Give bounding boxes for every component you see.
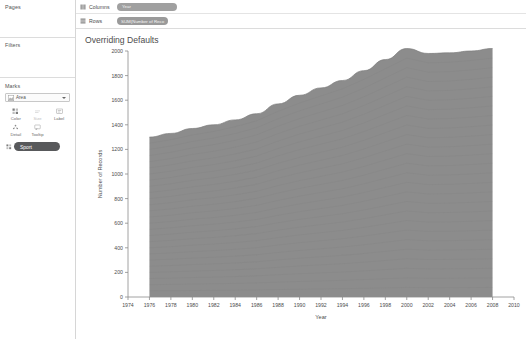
svg-text:1986: 1986 [251, 302, 263, 308]
svg-text:2008: 2008 [487, 302, 499, 308]
svg-text:2000: 2000 [111, 48, 123, 54]
svg-text:800: 800 [114, 196, 123, 202]
pill-sum-number-of-records[interactable]: SUM(Number of Reco [117, 17, 168, 25]
marks-button-label-label: Label [54, 116, 64, 121]
svg-text:1984: 1984 [229, 302, 241, 308]
columns-shelf-pills: Year [117, 3, 177, 11]
tableau-worksheet: Pages Filters Marks Area [0, 0, 526, 339]
area-chart[interactable]: 0200400600800100012001400160018002000197… [76, 29, 526, 339]
marks-button-size-label: Size [33, 116, 41, 121]
svg-text:1400: 1400 [111, 122, 123, 128]
marks-encoding-pill-row: Sport [5, 142, 70, 151]
columns-shelf-label: Columns [89, 4, 117, 10]
svg-text:1982: 1982 [208, 302, 220, 308]
svg-text:1000: 1000 [111, 171, 123, 177]
svg-text:1990: 1990 [294, 302, 306, 308]
svg-text:2010: 2010 [508, 302, 520, 308]
mark-type-dropdown[interactable]: Area [5, 93, 70, 102]
color-icon [6, 144, 12, 150]
rows-shelf-label: Rows [89, 18, 117, 24]
mark-type-value: Area [16, 95, 60, 100]
color-icon [12, 108, 19, 115]
filters-card: Filters [0, 38, 75, 78]
svg-text:Year: Year [315, 314, 326, 320]
rows-shelf[interactable]: Rows SUM(Number of Reco [76, 14, 526, 28]
chevron-down-icon [62, 97, 66, 99]
filters-card-title: Filters [5, 42, 70, 48]
shelf-bar: Columns Year Rows SUM(Number of Reco [76, 0, 526, 29]
marks-button-color[interactable]: Color [5, 106, 27, 122]
svg-text:1992: 1992 [315, 302, 327, 308]
svg-text:1988: 1988 [272, 302, 284, 308]
marks-button-label[interactable]: Label [48, 106, 70, 122]
svg-text:2002: 2002 [422, 302, 434, 308]
pages-card: Pages [0, 0, 75, 38]
svg-text:1996: 1996 [358, 302, 370, 308]
svg-text:1994: 1994 [337, 302, 349, 308]
tooltip-icon [34, 124, 41, 131]
svg-text:200: 200 [114, 269, 123, 275]
size-icon [34, 108, 41, 115]
rows-shelf-pills: SUM(Number of Reco [117, 17, 168, 25]
plot-wrapper: 0200400600800100012001400160018002000197… [76, 29, 526, 339]
marks-button-detail[interactable]: Detail [5, 122, 27, 138]
svg-text:1978: 1978 [165, 302, 177, 308]
svg-text:1998: 1998 [380, 302, 392, 308]
svg-text:2004: 2004 [444, 302, 456, 308]
svg-text:600: 600 [114, 220, 123, 226]
label-icon [56, 108, 63, 115]
marks-button-color-label: Color [11, 116, 21, 121]
svg-text:Number of Records: Number of Records [97, 150, 103, 199]
marks-sidebar: Pages Filters Marks Area [0, 0, 76, 339]
svg-text:1200: 1200 [111, 146, 123, 152]
svg-text:1974: 1974 [122, 302, 134, 308]
marks-card-title: Marks [5, 83, 70, 89]
worksheet-main: Columns Year Rows SUM(Number of Reco [76, 0, 526, 339]
mark-encoding-buttons: Color Size [5, 106, 70, 138]
marks-button-size[interactable]: Size [27, 106, 49, 122]
svg-text:400: 400 [114, 245, 123, 251]
svg-text:1980: 1980 [187, 302, 199, 308]
pages-card-title: Pages [5, 4, 70, 10]
visualization-pane: Overriding Defaults 02004006008001000120… [76, 29, 526, 339]
pill-year[interactable]: Year [117, 3, 177, 11]
marks-pill-sport[interactable]: Sport [14, 142, 60, 151]
marks-card: Marks Area [0, 78, 75, 339]
area-mark-icon [8, 95, 14, 101]
columns-icon [80, 4, 86, 10]
svg-text:1976: 1976 [144, 302, 156, 308]
svg-text:1800: 1800 [111, 73, 123, 79]
svg-text:0: 0 [120, 294, 123, 300]
svg-text:2000: 2000 [401, 302, 413, 308]
svg-text:2006: 2006 [465, 302, 477, 308]
marks-button-spacer [48, 122, 70, 138]
marks-button-tooltip-label: Tooltip [31, 132, 43, 137]
marks-button-detail-label: Detail [10, 132, 21, 137]
columns-shelf[interactable]: Columns Year [76, 0, 526, 14]
marks-button-tooltip[interactable]: Tooltip [27, 122, 49, 138]
detail-icon [12, 124, 19, 131]
rows-icon [80, 18, 86, 24]
svg-text:1600: 1600 [111, 97, 123, 103]
